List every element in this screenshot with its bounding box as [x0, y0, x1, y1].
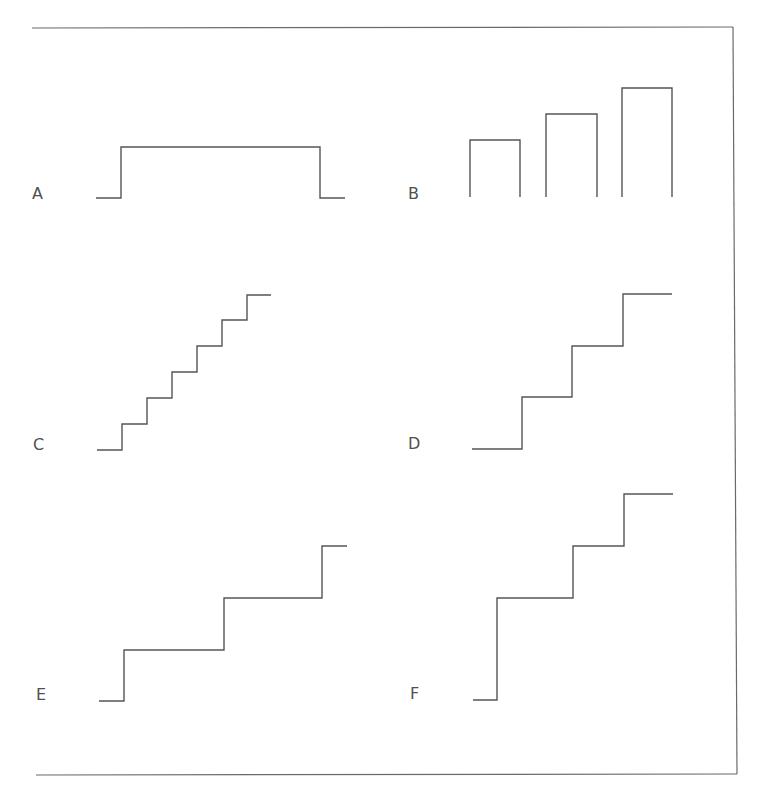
- waveform-c-fine-staircase: [97, 295, 271, 450]
- frame-bottom-border: [36, 774, 737, 775]
- pulse-bar-2: [546, 114, 597, 197]
- pulse-bar-1: [470, 140, 520, 197]
- panel-label-f: F: [410, 686, 419, 702]
- waveform-figure: [0, 0, 759, 788]
- pulse-bar-3: [622, 88, 672, 197]
- waveform-e-wide-staircase: [99, 546, 347, 701]
- frame-top-border: [32, 27, 733, 28]
- panel-label-b: B: [408, 186, 419, 202]
- waveform-d-equal-staircase: [472, 294, 672, 449]
- panel-label-a: A: [32, 186, 43, 202]
- waveform-b-three-pulses: [470, 88, 672, 197]
- panel-label-c: C: [33, 437, 44, 453]
- waveform-f-uneven-staircase: [473, 494, 673, 700]
- waveform-a-single-pulse: [96, 147, 345, 198]
- panel-label-d: D: [408, 436, 420, 452]
- panel-label-e: E: [36, 687, 46, 703]
- frame-right-border: [733, 27, 737, 774]
- figure-frame: [32, 27, 737, 775]
